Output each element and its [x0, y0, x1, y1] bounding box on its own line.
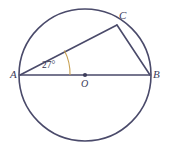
vertex-label-c: C — [119, 10, 126, 21]
angle-arc-A — [64, 51, 70, 76]
angle-measure-label: 27° — [42, 61, 55, 71]
geometry-canvas — [0, 0, 172, 151]
center-point-O — [83, 73, 87, 77]
segment-CB-chord — [117, 25, 150, 75]
center-label-o: O — [81, 79, 88, 89]
vertex-label-a: A — [10, 69, 17, 80]
vertex-label-b: B — [153, 69, 160, 80]
geometry-figure: A B C O 27° — [0, 0, 172, 151]
